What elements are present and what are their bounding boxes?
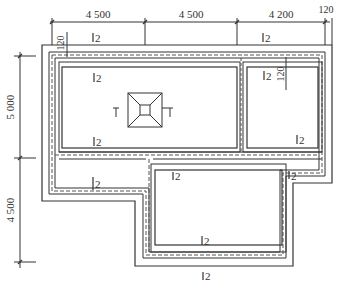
dim-offset-1: 120 — [55, 36, 66, 51]
section-label: 2 — [266, 70, 272, 82]
left-dimension-line — [14, 52, 36, 268]
foundation-plan: 4 500 4 500 4 200 120 5 000 4 500 120 12… — [0, 0, 339, 288]
pedestal-mark-left: 1 — [113, 118, 114, 119]
top-dimension-line — [50, 18, 332, 45]
pedestal-mark-right: 1 — [170, 118, 171, 119]
section-label: 2 — [95, 178, 101, 190]
pedestal-footing — [128, 93, 162, 127]
dim-left-2: 4 500 — [4, 197, 16, 222]
section-label: 2 — [205, 270, 211, 282]
dim-offset-2: 120 — [275, 67, 286, 82]
section-label: 2 — [95, 32, 101, 44]
section-label: 2 — [265, 32, 271, 44]
dim-top-1: 4 500 — [86, 8, 111, 20]
dim-top-2: 4 500 — [179, 8, 204, 20]
section-label: 2 — [175, 170, 181, 182]
dim-left-1: 5 000 — [4, 94, 16, 119]
section-label: 2 — [96, 136, 102, 148]
section-label: 2 — [291, 170, 297, 182]
dim-top-4: 120 — [319, 4, 334, 15]
section-label: 2 — [204, 235, 210, 247]
section-label: 2 — [299, 134, 305, 146]
section-label: 2 — [96, 72, 102, 84]
dim-top-3: 4 200 — [269, 8, 294, 20]
